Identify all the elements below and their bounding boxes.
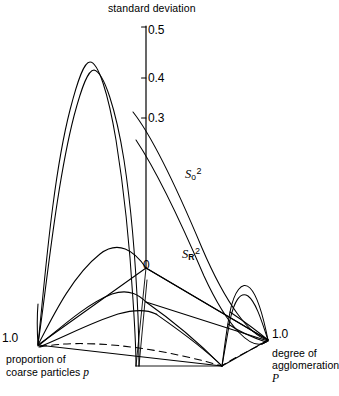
right-caption-line1: degree of <box>272 347 317 359</box>
left-caption-symbol: p <box>83 366 89 378</box>
axis-sliver-left <box>136 268 146 366</box>
so2-back-ridge-curve <box>38 70 139 366</box>
right-end-profile-inner <box>222 295 268 366</box>
ruled-line-mid-right <box>146 302 268 341</box>
sr2-mid-arc <box>38 292 146 346</box>
series-label-sr2: SR2 <box>182 246 200 262</box>
tick-label-0-5: 0.5 <box>148 24 164 37</box>
sr2-back-ridge-arc <box>38 247 146 345</box>
left-caption-line1: proportion of <box>6 353 66 365</box>
chart-title: standard deviation <box>108 3 196 15</box>
tick-label-0-3: 0.3 <box>148 112 164 125</box>
origin-tick-label: 0 <box>143 259 150 272</box>
so2-descending-curve <box>133 112 268 340</box>
left-end-edge <box>37 304 38 345</box>
left-caption-line2: coarse particles <box>6 366 80 378</box>
left-corner-tick-label: 1.0 <box>2 332 18 345</box>
right-caption-line2: agglomeration <box>272 359 339 371</box>
so2-front-ridge-curve <box>38 62 136 366</box>
right-caption-symbol: P <box>272 372 279 384</box>
right-axis-caption: degree ofagglomerationP <box>272 348 339 384</box>
right-corner-tick-label: 1.0 <box>272 328 288 341</box>
so2-superscript: 2 <box>196 166 201 176</box>
ruled-line-origin-right <box>146 268 268 340</box>
base-edge-left-back <box>38 268 146 345</box>
series-label-so2: So2 <box>185 166 202 182</box>
sr2-superscript: 2 <box>195 246 200 256</box>
sr2-subscript: R <box>188 252 194 262</box>
sr2-front-ridge-pair <box>156 314 222 366</box>
tick-label-0-4: 0.4 <box>148 72 164 85</box>
left-axis-caption: proportion ofcoarse particles p <box>6 354 89 379</box>
